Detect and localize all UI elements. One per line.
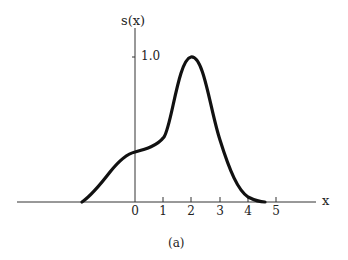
x-axis-label: x [322, 194, 329, 207]
chart-plot [0, 0, 348, 260]
y-axis-label: s(x) [121, 14, 145, 27]
y-tick-label: 1.0 [141, 50, 160, 62]
x-tick-label: 2 [187, 205, 195, 217]
x-tick-label: 0 [131, 205, 139, 217]
x-tick-label: 4 [244, 205, 252, 217]
x-tick-label: 5 [272, 205, 280, 217]
curve-s-of-x [82, 57, 265, 202]
x-tick-label: 1 [159, 205, 167, 217]
x-tick-label: 3 [216, 205, 224, 217]
figure-caption: (a) [168, 237, 185, 249]
